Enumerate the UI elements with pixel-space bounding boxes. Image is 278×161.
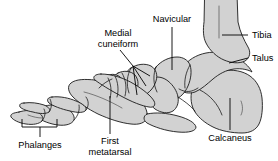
leader-medial-cuneiform-main [120, 50, 133, 66]
label-first-metatarsal-line2: metatarsal [89, 147, 132, 157]
label-medial-cuneiform-line1: Medial [104, 28, 131, 38]
foot-skeleton-figure: Navicular Tibia Talus Calcaneus Medial c… [0, 0, 278, 161]
label-navicular: Navicular [153, 14, 191, 24]
bone-plantar-process [144, 113, 196, 132]
label-medial-cuneiform-line2: cuneiform [98, 39, 139, 49]
label-tibia: Tibia [252, 30, 272, 40]
label-first-metatarsal-line1: First [101, 136, 119, 146]
bone-shapes [11, 0, 263, 133]
label-talus: Talus [252, 53, 274, 63]
label-calcaneus: Calcaneus [208, 133, 252, 143]
foot-skeleton-svg: Navicular Tibia Talus Calcaneus Medial c… [0, 0, 278, 161]
label-phalanges: Phalanges [18, 140, 62, 150]
